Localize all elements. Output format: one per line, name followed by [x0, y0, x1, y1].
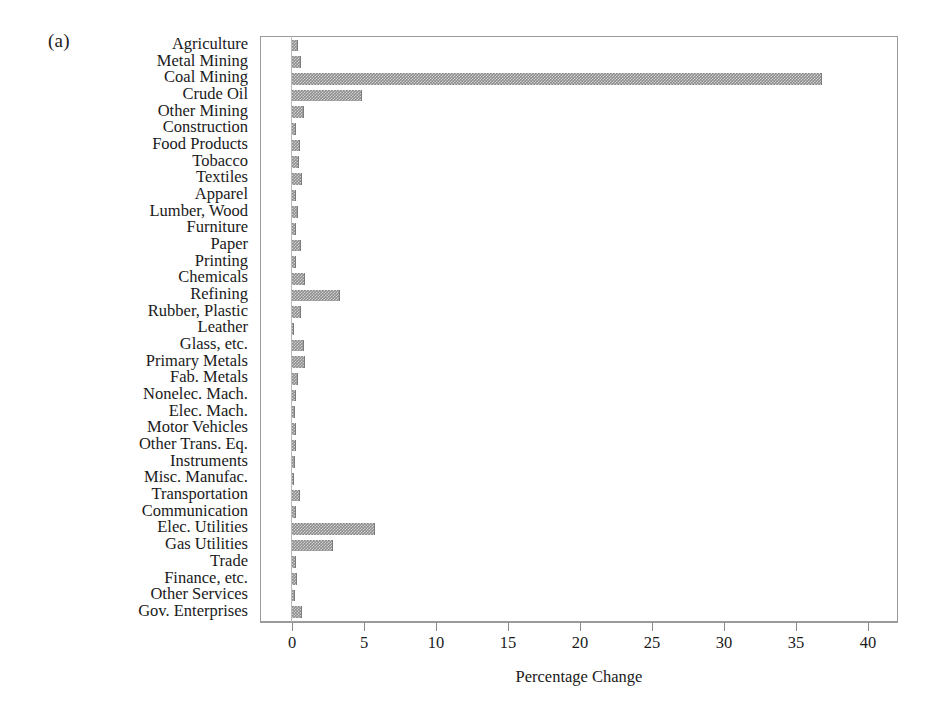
bar-row	[261, 37, 897, 54]
bar	[292, 556, 296, 568]
x-axis-title: Percentage Change	[260, 667, 898, 687]
bar-row	[261, 154, 897, 171]
x-tick-mark	[652, 622, 653, 631]
bar-row	[261, 504, 897, 521]
bar-row	[261, 387, 897, 404]
bar	[292, 490, 300, 502]
bar	[292, 540, 333, 552]
x-tick-label: 10	[428, 633, 445, 653]
bar	[292, 223, 296, 235]
x-tick-mark	[796, 622, 797, 631]
bar	[292, 390, 296, 402]
category-label: Gov. Enterprises	[60, 603, 254, 620]
bar	[292, 190, 296, 202]
bar-row	[261, 120, 897, 137]
x-tick-mark	[724, 622, 725, 631]
bar-row	[261, 587, 897, 604]
x-tick-mark	[580, 622, 581, 631]
bar	[292, 440, 296, 452]
bar	[292, 356, 305, 368]
bar	[292, 523, 375, 535]
bar	[292, 473, 294, 485]
x-tick-label: 30	[716, 633, 733, 653]
bar	[292, 323, 294, 335]
bar-row	[261, 54, 897, 71]
bar-row	[261, 454, 897, 471]
x-tick-label: 5	[360, 633, 368, 653]
bar-row	[261, 370, 897, 387]
x-axis: 0510152025303540	[260, 622, 898, 623]
figure-panel: (a) AgricultureMetal MiningCoal MiningCr…	[0, 0, 944, 719]
bar	[292, 573, 297, 585]
bar	[292, 590, 295, 602]
bars-layer	[261, 37, 897, 621]
bar-row	[261, 470, 897, 487]
bar-row	[261, 437, 897, 454]
x-tick-mark	[508, 622, 509, 631]
bar-row	[261, 337, 897, 354]
bar	[292, 456, 295, 468]
bar-row	[261, 270, 897, 287]
bar-row	[261, 537, 897, 554]
bar	[292, 506, 296, 518]
x-tick-label: 25	[644, 633, 661, 653]
bar	[292, 73, 822, 85]
x-tick-mark	[436, 622, 437, 631]
bar-row	[261, 304, 897, 321]
bar	[292, 423, 296, 435]
bar	[292, 290, 340, 302]
bar	[292, 273, 305, 285]
bar-row	[261, 604, 897, 621]
x-tick-label: 15	[500, 633, 517, 653]
x-tick-label: 0	[288, 633, 296, 653]
bar-row	[261, 354, 897, 371]
bar	[292, 240, 301, 252]
bar-row	[261, 137, 897, 154]
x-tick-mark	[364, 622, 365, 631]
bar-row	[261, 237, 897, 254]
bar	[292, 606, 302, 618]
bar-row	[261, 320, 897, 337]
bar	[292, 206, 298, 218]
bar-row	[261, 220, 897, 237]
bar-row	[261, 404, 897, 421]
bar-row	[261, 70, 897, 87]
category-label: Trade	[60, 553, 254, 570]
bar-row	[261, 187, 897, 204]
x-tick-label: 40	[860, 633, 877, 653]
bar-row	[261, 554, 897, 571]
bar	[292, 406, 295, 418]
bar	[292, 340, 304, 352]
bar	[292, 90, 362, 102]
x-tick-mark	[292, 622, 293, 631]
bar-row	[261, 104, 897, 121]
bar	[292, 56, 301, 68]
bar	[292, 173, 302, 185]
bar-row	[261, 170, 897, 187]
bar-row	[261, 254, 897, 271]
x-tick-label: 20	[572, 633, 589, 653]
bar	[292, 306, 301, 318]
bar-row	[261, 87, 897, 104]
bar	[292, 140, 300, 152]
bar	[292, 106, 304, 118]
bar-row	[261, 520, 897, 537]
category-axis-labels: AgricultureMetal MiningCoal MiningCrude …	[60, 36, 254, 622]
bar-row	[261, 571, 897, 588]
bar	[292, 40, 298, 52]
bar	[292, 123, 296, 135]
x-tick-mark	[868, 622, 869, 631]
x-tick-label: 35	[788, 633, 805, 653]
bar-row	[261, 487, 897, 504]
bar	[292, 373, 298, 385]
bar	[292, 156, 299, 168]
bar-row	[261, 420, 897, 437]
bar-row	[261, 204, 897, 221]
bar-row	[261, 287, 897, 304]
bar	[292, 256, 296, 268]
